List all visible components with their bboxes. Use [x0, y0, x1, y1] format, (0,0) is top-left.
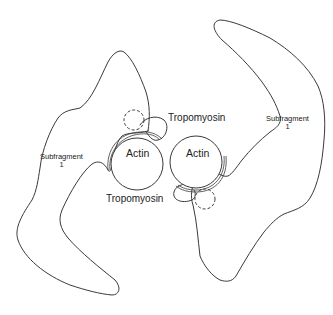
- actin-left-circle: [111, 138, 163, 190]
- dashed-circle-top: [124, 110, 144, 130]
- actin-left-label: Actin: [126, 148, 149, 159]
- tropomyosin-bottom-label: Tropomyosin: [106, 194, 163, 204]
- actin-right-label: Actin: [186, 148, 209, 159]
- actin-right-circle: [170, 136, 222, 188]
- subfragment-left-label: Subfragment 1: [40, 153, 83, 168]
- subfragment-right-number: 1: [266, 123, 309, 131]
- subfragment-left-number: 1: [40, 161, 83, 169]
- tropomyosin-top-label: Tropomyosin: [168, 113, 225, 123]
- subfragment-right-label: Subfragment 1: [266, 115, 309, 130]
